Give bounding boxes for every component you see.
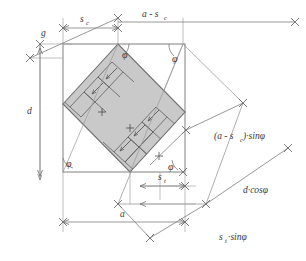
label-a-minus-sc: a - s c xyxy=(142,9,167,21)
label-g: g xyxy=(41,28,46,38)
label-a-minus-sc-sin-phi: (a - s c )·sinφ xyxy=(214,131,265,143)
inclined-shaded-band xyxy=(63,44,185,172)
label-a: a xyxy=(120,209,125,219)
svg-text:(a - s: (a - s xyxy=(214,131,234,142)
dimension-line-g xyxy=(30,18,118,58)
label-d-cos-phi: d·cosφ xyxy=(243,185,268,195)
label-st-sin-phi: s t ·sinφ xyxy=(219,232,247,244)
label-d: d xyxy=(27,106,32,116)
dimension-line-dcos xyxy=(206,148,288,204)
label-phi-bottom-right: φ xyxy=(168,161,174,172)
label-phi-band-top: φ xyxy=(122,49,128,60)
dimension-line-st-sin xyxy=(150,204,206,238)
construction-diagram: g s c a - s c d a s t (a - s c )·sinφ d·… xyxy=(0,0,306,261)
svg-text:s: s xyxy=(158,172,162,182)
svg-text:·sinφ: ·sinφ xyxy=(228,232,247,242)
svg-text:c: c xyxy=(86,19,89,26)
svg-text:s: s xyxy=(219,232,223,242)
label-phi-bottom-left: φ xyxy=(66,158,72,169)
diagram-canvas: g s c a - s c d a s t (a - s c )·sinφ d·… xyxy=(0,0,306,261)
svg-text:t: t xyxy=(164,177,166,184)
svg-text:t: t xyxy=(225,237,227,244)
svg-text:s: s xyxy=(80,14,84,24)
label-st: s t xyxy=(158,172,166,184)
label-phi-top-right: φ xyxy=(172,53,178,64)
svg-text:c: c xyxy=(164,14,167,21)
svg-text:a - s: a - s xyxy=(142,9,159,19)
svg-text:)·sinφ: )·sinφ xyxy=(242,131,265,142)
label-sc: s c xyxy=(80,14,89,26)
